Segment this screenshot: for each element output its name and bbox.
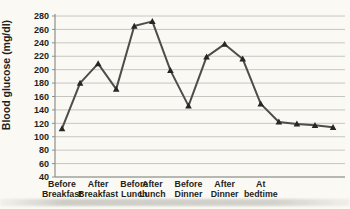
y-tick-label: 140 <box>34 105 49 115</box>
y-tick-label: 200 <box>34 65 49 75</box>
y-tick-label: 180 <box>34 78 49 88</box>
x-tick-label: Dinner <box>175 189 203 199</box>
y-tick-label: 220 <box>34 51 49 61</box>
x-tick-label: After <box>88 179 109 189</box>
x-tick-label: After <box>142 179 163 189</box>
y-tick-label: 60 <box>39 159 49 169</box>
data-point-marker <box>59 125 66 131</box>
x-tick-label: Dinner <box>211 189 239 199</box>
x-tick-label: Before <box>48 179 76 189</box>
y-tick-label: 280 <box>34 11 49 21</box>
data-point-marker <box>95 60 102 66</box>
series-layer <box>59 18 337 131</box>
x-tick-label: Breakfast <box>78 189 118 199</box>
x-tick-label: Lunch <box>139 189 165 199</box>
y-axis-title: Blood glucose (mg/dl) <box>0 20 12 130</box>
x-tick-label: After <box>214 179 235 189</box>
y-tick-label: 240 <box>34 38 49 48</box>
x-tick-label: Before <box>175 179 203 189</box>
blood-glucose-chart: 406080100120140160180200220240260280 Bef… <box>0 0 350 209</box>
data-point-marker <box>221 41 228 47</box>
y-tick-label: 80 <box>39 145 49 155</box>
label-layer: BeforeBreakfastAfterBreakfastBeforeLunch… <box>42 179 278 199</box>
y-tick-label: 100 <box>34 132 49 142</box>
y-tick-label: 260 <box>34 25 49 35</box>
data-point-marker <box>257 100 264 106</box>
x-tick-label: bedtime <box>244 189 278 199</box>
x-tick-label: Breakfast <box>42 189 82 199</box>
y-tick-label: 120 <box>34 119 49 129</box>
glucose-line <box>62 21 333 128</box>
grid-layer <box>55 16 345 177</box>
scanned-page: 406080100120140160180200220240260280 Bef… <box>0 0 350 209</box>
y-tick-label: 160 <box>34 92 49 102</box>
x-tick-label: At <box>256 179 265 189</box>
